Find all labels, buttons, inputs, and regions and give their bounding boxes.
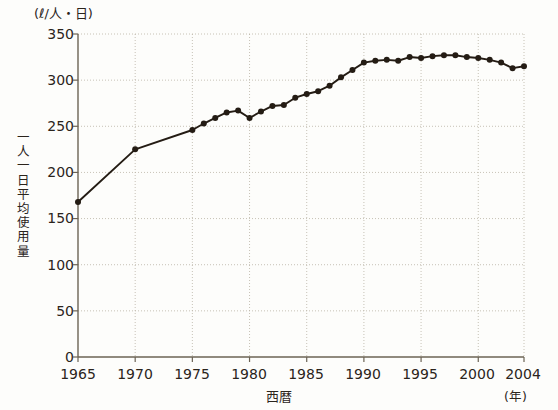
data-point [189,127,195,133]
data-point [212,115,218,121]
data-point [201,121,207,127]
data-point [430,53,436,59]
data-point [224,109,230,115]
data-point [327,83,333,89]
data-point [452,52,458,58]
data-point [384,57,390,63]
data-point [464,54,470,60]
data-point [441,52,447,58]
data-series-line [78,55,524,202]
data-point [521,63,527,69]
grid-lines [78,34,524,357]
data-point [269,103,275,109]
x-tick-marks [78,357,524,362]
data-point [132,146,138,152]
data-point [361,60,367,66]
data-point [349,67,355,73]
data-point [407,54,413,60]
chart-figure: (ℓ/人・日) 一 人 一 日 平 均 使 用 量 350 300 250 20… [0,0,558,410]
data-point [372,58,378,64]
chart-plot-area [0,0,558,410]
data-point [498,60,504,66]
data-point [510,65,516,71]
data-point [247,115,253,121]
data-point [304,91,310,97]
data-point [235,108,241,114]
data-point [475,55,481,61]
data-point [338,74,344,80]
data-point [281,102,287,108]
data-series-markers [75,52,527,205]
data-point [292,95,298,101]
data-point [258,109,264,115]
y-tick-marks [73,34,78,357]
axis-lines [78,34,524,357]
data-point [418,55,424,61]
data-point [487,57,493,63]
data-point [395,58,401,64]
data-point [75,199,81,205]
data-point [315,88,321,94]
